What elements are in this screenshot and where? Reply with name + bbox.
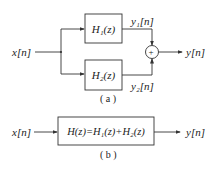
branch2-output-label: y₂[n]	[131, 80, 154, 92]
block2-label: H₂(z)	[85, 69, 122, 81]
sum-symbol: +	[149, 46, 154, 58]
output-label-b: y[n]	[186, 126, 205, 138]
input-label-b: x[n]	[12, 126, 31, 138]
caption-a: ( a )	[100, 93, 116, 105]
branch1-output-label: y₁[n]	[131, 15, 154, 27]
combined-block-label: H(z)=H₁(z)+H₂(z)	[58, 126, 154, 138]
block1-label: H₁(z)	[85, 23, 122, 35]
input-label-a: x[n]	[12, 46, 31, 58]
output-label-a: y[n]	[186, 46, 205, 58]
caption-b: ( b )	[100, 149, 117, 161]
